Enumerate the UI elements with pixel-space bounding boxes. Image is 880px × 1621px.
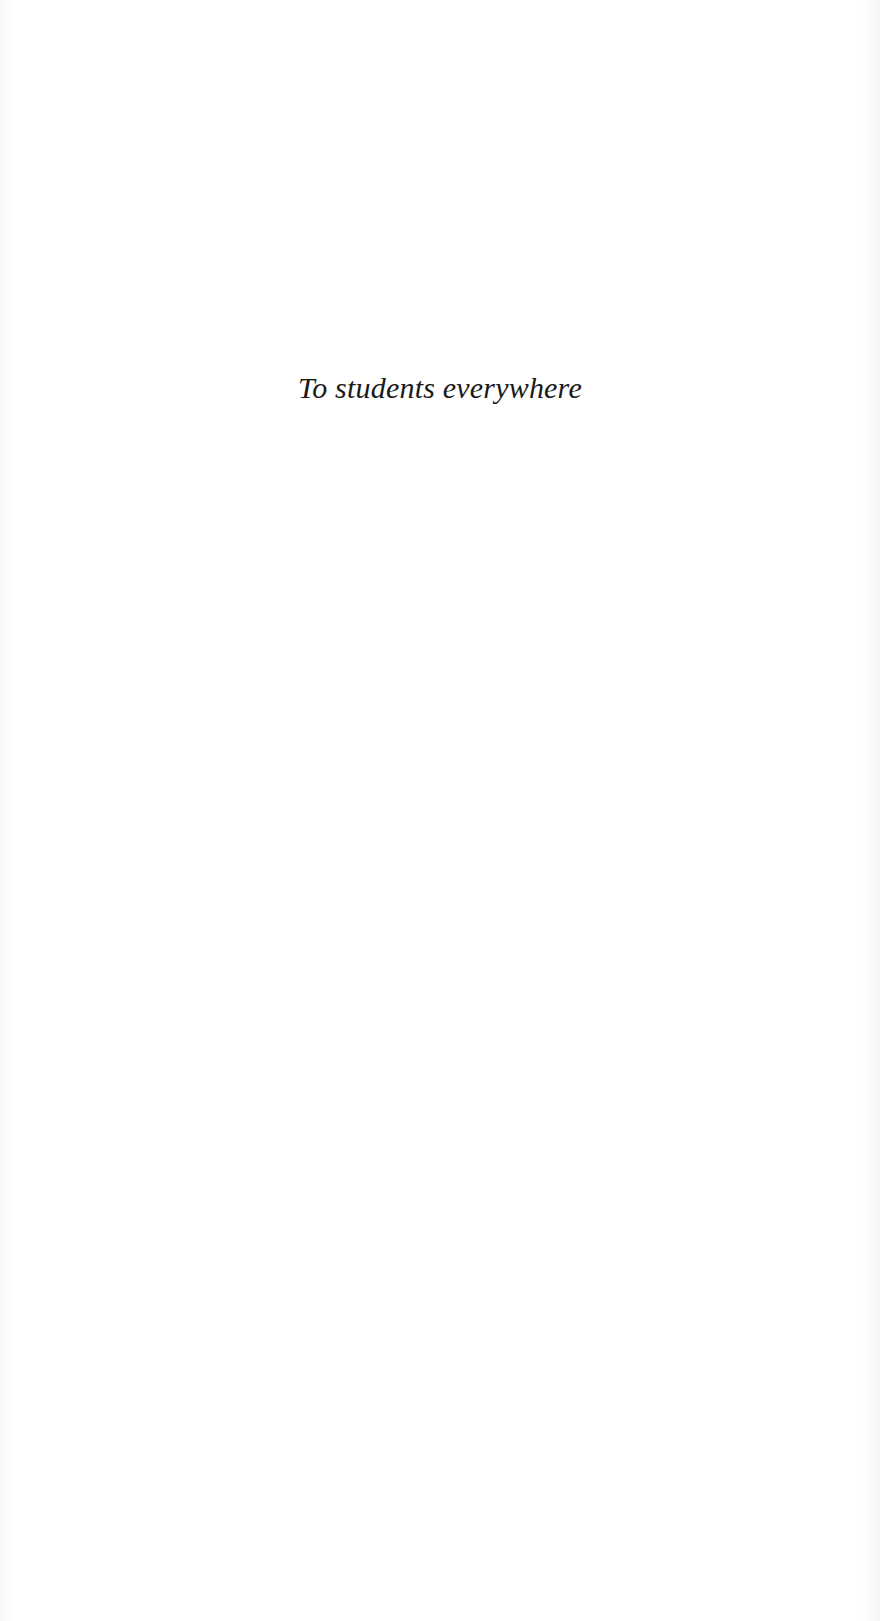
book-page: To students everywhere — [0, 0, 880, 1621]
dedication-text: To students everywhere — [0, 370, 880, 406]
